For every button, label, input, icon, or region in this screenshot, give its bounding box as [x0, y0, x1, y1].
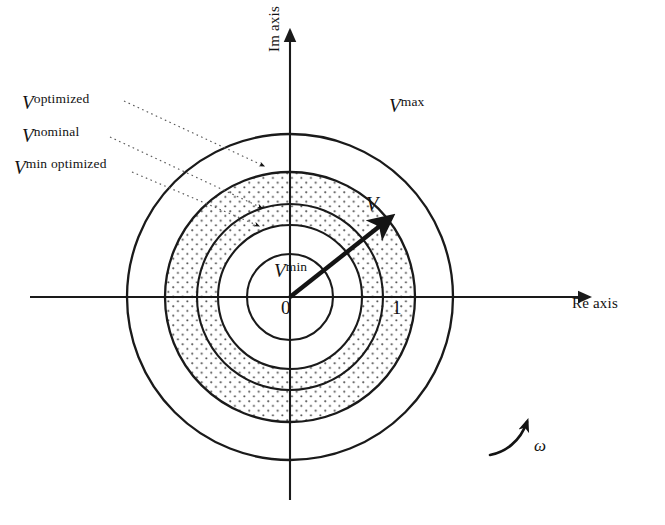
- label-v-min-symbol: V: [274, 260, 286, 281]
- label-v-max: Vmax: [389, 94, 425, 117]
- label-v-min-optimized-symbol: V: [14, 157, 26, 178]
- label-v-optimized: Voptimized: [22, 91, 90, 114]
- label-origin: 0: [281, 297, 291, 319]
- diagram-canvas: [0, 0, 665, 525]
- label-v-max-symbol: V: [389, 95, 401, 116]
- label-voltage-phasor: V: [366, 193, 378, 216]
- label-v-min: Vmin: [274, 259, 307, 282]
- label-v-optimized-superscript: optimized: [34, 91, 90, 106]
- label-v-optimized-symbol: V: [22, 92, 34, 113]
- label-v-nominal-superscript: nominal: [34, 124, 80, 139]
- label-v-nominal-symbol: V: [22, 125, 34, 146]
- label-v-nominal: Vnominal: [22, 124, 79, 147]
- label-re-axis: Re axis: [572, 295, 618, 312]
- label-im-axis: Im axis: [266, 6, 283, 52]
- label-omega: ω: [534, 436, 546, 456]
- label-v-min-optimized-superscript: min optimized: [26, 156, 107, 171]
- label-v-min-superscript: min: [286, 259, 308, 274]
- complex-plane-diagram: Voptimized Vnominal Vmin optimized Vmax …: [0, 0, 665, 525]
- label-v-max-superscript: max: [401, 94, 425, 109]
- label-v-min-optimized: Vmin optimized: [14, 156, 107, 179]
- label-unit-tick: 1: [392, 297, 402, 319]
